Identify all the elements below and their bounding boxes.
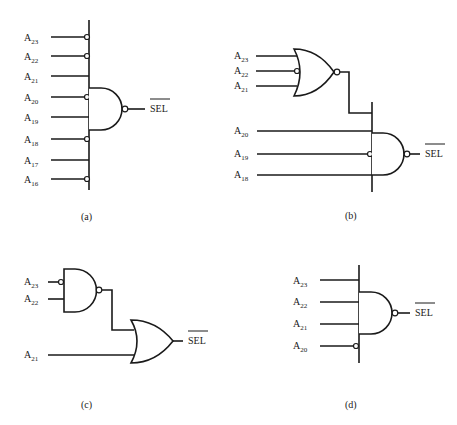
svg-text:A22: A22 [234, 65, 249, 79]
input-a21: A21 [234, 80, 297, 94]
input-a23: A23 [24, 276, 64, 290]
svg-text:A23: A23 [24, 276, 39, 290]
caption-a: (a) [81, 211, 92, 223]
output-inversion-bubble [334, 69, 340, 75]
caption-c: (c) [81, 399, 92, 411]
input-a19: A19 [234, 148, 373, 162]
svg-text:A20: A20 [293, 340, 308, 354]
inversion-bubble [295, 69, 300, 74]
input-a21: A21 [24, 349, 134, 363]
address-decoder-diagrams: A23 A22 A21 A20 A19 A18 A17 [0, 0, 457, 425]
input-a18: A18 [24, 134, 90, 148]
svg-text:SEL: SEL [415, 307, 433, 318]
inversion-bubble [85, 35, 90, 40]
svg-text:A21: A21 [24, 349, 39, 363]
input-a22: A22 [234, 65, 300, 79]
svg-text:SEL: SEL [188, 335, 206, 346]
inversion-bubble [85, 137, 90, 142]
input-a21: A21 [293, 318, 359, 332]
inversion-bubble [59, 280, 64, 285]
input-a16: A16 [24, 174, 90, 188]
svg-text:A17: A17 [24, 155, 39, 169]
nand-gate-icon [359, 292, 392, 334]
nand-to-or-wire [102, 290, 134, 330]
svg-text:A22: A22 [293, 296, 308, 310]
svg-text:A19: A19 [24, 112, 39, 126]
svg-text:A23: A23 [24, 32, 39, 46]
svg-text:A22: A22 [24, 51, 39, 65]
panel-c: A23 A22 A21 OR SEL (c) [24, 269, 208, 411]
output-inversion-bubble [392, 310, 398, 316]
inversion-bubble [354, 344, 359, 349]
input-a18: A18 [234, 169, 372, 183]
svg-text:A18: A18 [24, 134, 39, 148]
caption-b: (b) [345, 210, 357, 222]
nor-gate-icon [294, 49, 334, 96]
inversion-bubble [368, 152, 373, 157]
svg-text:A21: A21 [24, 71, 39, 85]
svg-text:A20: A20 [234, 125, 249, 139]
input-a23: A23 [24, 32, 90, 46]
panel-b: A23 A22 A21 A20 A19 A18 [234, 49, 445, 222]
svg-text:A23: A23 [293, 275, 308, 289]
nand-gate-icon [64, 269, 96, 312]
svg-text:A16: A16 [24, 174, 39, 188]
output-inversion-bubble [404, 151, 410, 157]
output-sel-label: SEL [415, 303, 435, 318]
svg-text:A20: A20 [24, 92, 39, 106]
svg-text:A21: A21 [234, 80, 249, 94]
svg-text:SEL: SEL [150, 103, 168, 114]
input-a20: A20 [24, 92, 90, 106]
inversion-bubble [85, 54, 90, 59]
caption-d: (d) [345, 399, 357, 411]
panel-a: A23 A22 A21 A20 A19 A18 A17 [24, 20, 170, 223]
input-a21: A21 [24, 71, 89, 85]
input-a22: A22 [24, 51, 90, 65]
input-a20: A20 [234, 125, 372, 139]
svg-text:SEL: SEL [425, 148, 443, 159]
output-sel-label: SEL [425, 144, 445, 159]
or-gate-icon [131, 320, 173, 363]
inversion-bubble [85, 177, 90, 182]
output-inversion-bubble [96, 287, 102, 293]
svg-text:A23: A23 [234, 50, 249, 64]
nand-gate-icon [89, 88, 122, 130]
output-inversion-bubble [122, 106, 128, 112]
input-a17: A17 [24, 155, 89, 169]
svg-text:A21: A21 [293, 318, 308, 332]
input-a23: A23 [234, 50, 297, 64]
input-a20: A20 [293, 340, 359, 354]
input-a19: A19 [24, 112, 89, 126]
output-sel-label: OR SEL [188, 331, 208, 346]
svg-text:A18: A18 [234, 169, 249, 183]
input-a22: A22 [293, 296, 359, 310]
svg-text:A22: A22 [24, 293, 39, 307]
input-a22: A22 [24, 293, 64, 307]
inversion-bubble [85, 95, 90, 100]
output-sel-label: SEL [150, 99, 170, 114]
nand-gate-icon [372, 133, 404, 175]
svg-text:A19: A19 [234, 148, 249, 162]
nor-to-nand-wire [340, 72, 372, 113]
input-a23: A23 [293, 275, 359, 289]
panel-d: A23 A22 A21 A20 SEL (d) [293, 265, 435, 411]
